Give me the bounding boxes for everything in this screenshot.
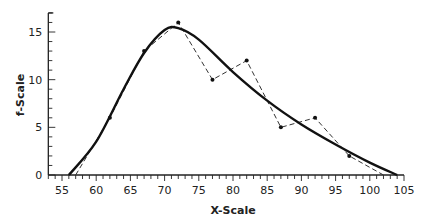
y-tick-label: 5 <box>35 121 42 134</box>
x-tick-label: 105 <box>394 184 415 197</box>
x-tick-label: 95 <box>329 184 343 197</box>
x-tick-label: 90 <box>294 184 308 197</box>
data-point <box>210 78 214 82</box>
data-point <box>245 59 249 63</box>
smoothed-curve <box>69 27 397 175</box>
data-point <box>347 154 351 158</box>
data-point <box>279 125 283 129</box>
x-axis-label: X-Scale <box>210 204 255 217</box>
x-tick-label: 55 <box>55 184 69 197</box>
x-tick-label: 60 <box>89 184 103 197</box>
x-tick-label: 75 <box>192 184 206 197</box>
ticks: 556065707580859095100105051015 <box>28 13 414 197</box>
y-tick-label: 10 <box>28 74 42 87</box>
x-tick-label: 70 <box>158 184 172 197</box>
data-point <box>176 20 180 24</box>
x-tick-label: 100 <box>359 184 380 197</box>
series <box>69 20 397 175</box>
x-tick-label: 65 <box>123 184 137 197</box>
x-tick-label: 85 <box>260 184 274 197</box>
y-tick-label: 0 <box>35 169 42 182</box>
y-axis-label: f-Scale <box>14 74 27 116</box>
data-point <box>313 116 317 120</box>
y-tick-label: 15 <box>28 26 42 39</box>
x-tick-label: 80 <box>226 184 240 197</box>
frequency-polygon-line <box>76 22 384 175</box>
axes <box>48 13 404 175</box>
chart: 556065707580859095100105051015 X-Scale f… <box>0 0 429 220</box>
